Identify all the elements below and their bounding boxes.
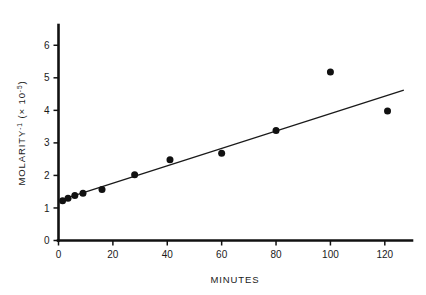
data-point bbox=[166, 156, 173, 163]
data-point bbox=[131, 171, 138, 178]
y-tick-label: 0 bbox=[44, 235, 50, 246]
data-points-group bbox=[59, 68, 391, 204]
data-point bbox=[79, 190, 86, 197]
x-tick-label: 80 bbox=[270, 249, 282, 260]
x-axis-title: MINUTES bbox=[210, 274, 259, 285]
y-axis-title-group: MOLARITY-1 (× 10-5) bbox=[16, 81, 27, 186]
y-tick-label: 6 bbox=[44, 40, 50, 51]
x-axis-ticks: 020406080100120 bbox=[56, 241, 394, 260]
axes-group bbox=[58, 25, 412, 241]
x-tick-label: 20 bbox=[107, 249, 119, 260]
x-tick-label: 120 bbox=[376, 249, 393, 260]
data-point bbox=[65, 195, 72, 202]
x-tick-label: 40 bbox=[162, 249, 174, 260]
y-tick-label: 1 bbox=[44, 203, 50, 214]
data-point bbox=[218, 150, 225, 157]
x-tick-label: 60 bbox=[216, 249, 228, 260]
x-tick-label: 100 bbox=[322, 249, 339, 260]
y-tick-label: 2 bbox=[44, 170, 50, 181]
data-point bbox=[327, 68, 334, 75]
data-point bbox=[273, 127, 280, 134]
y-tick-label: 4 bbox=[44, 105, 50, 116]
plot-canvas: 0123456 020406080100120 MINUTES MOLARITY… bbox=[0, 0, 426, 295]
data-point bbox=[71, 192, 78, 199]
data-point bbox=[99, 186, 106, 193]
fit-line bbox=[69, 90, 403, 197]
kinetics-plot-figure: 0123456 020406080100120 MINUTES MOLARITY… bbox=[0, 0, 426, 295]
x-tick-label: 0 bbox=[56, 249, 62, 260]
fit-line-group bbox=[69, 90, 403, 197]
y-tick-label: 3 bbox=[44, 137, 50, 148]
y-axis-title: MOLARITY-1 (× 10-5) bbox=[16, 81, 27, 186]
y-tick-label: 5 bbox=[44, 72, 50, 83]
data-point bbox=[384, 108, 391, 115]
y-axis-ticks: 0123456 bbox=[44, 40, 59, 246]
